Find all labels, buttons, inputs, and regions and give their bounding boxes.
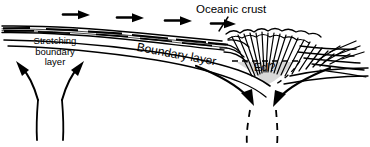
geological-cross-section-diagram: Oceanic crust Stretching boundary layer … (0, 0, 370, 147)
label-stretching-boundary-layer-line-3: layer (19, 57, 91, 68)
diagram-canvas (0, 0, 370, 147)
label-eclogite: Ecl? (254, 62, 275, 74)
upwelling-tails (37, 100, 64, 140)
surface-flow-arrow-3 (165, 16, 192, 25)
label-stretching-boundary-layer: Stretching boundary layer (19, 36, 91, 68)
surface-flow-arrow-2 (117, 13, 144, 22)
surface-flow-arrow-1 (63, 10, 90, 19)
right-flank-envelope-2 (284, 76, 368, 84)
label-oceanic-crust: Oceanic crust (196, 3, 266, 15)
dashed-flow-trails (247, 110, 278, 145)
